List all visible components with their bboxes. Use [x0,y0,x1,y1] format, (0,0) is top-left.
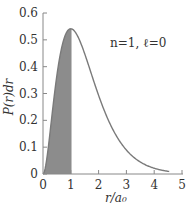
y-tick-label: 0.4 [19,60,38,74]
x-axis-label: r/a₀ [105,191,127,205]
y-tick-label: 0.3 [19,87,38,101]
x-tick-label: 1 [67,178,75,192]
annotation-quantum-numbers: n=1, ℓ=0 [110,36,166,50]
y-axis-label: P(r)dr [2,77,16,116]
x-tick-label: 2 [95,178,103,192]
radial-probability-chart: 00.10.20.30.40.50.6 012345 n=1, ℓ=0 r/a₀… [0,0,189,211]
x-tick-label: 5 [178,178,186,192]
y-tick-label: 0.2 [19,113,38,127]
x-tick-label: 0 [39,178,47,192]
y-tick-label: 0 [30,167,38,181]
x-tick-label: 3 [123,178,131,192]
y-tick-label: 0.1 [19,140,38,154]
y-tick-label: 0.5 [19,33,38,47]
x-tick-label: 4 [150,178,158,192]
y-tick-label: 0.6 [19,6,38,20]
